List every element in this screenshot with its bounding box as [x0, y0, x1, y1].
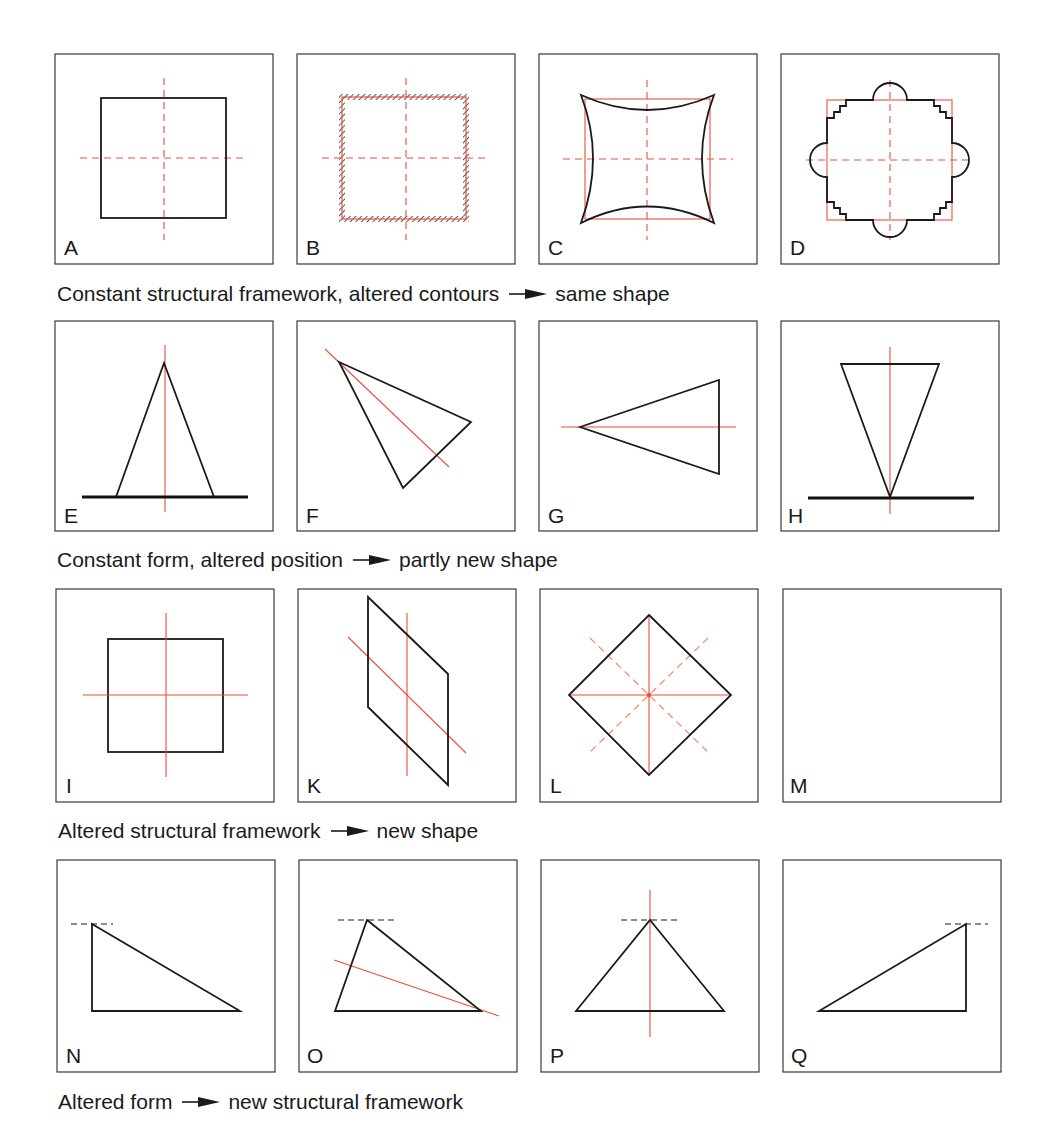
caption-premise: Constant form, altered position [57, 548, 343, 572]
panel-label: H [788, 504, 803, 527]
panel-frame [57, 860, 275, 1072]
caption-premise: Constant structural framework, altered c… [57, 282, 499, 306]
panel-k: K [298, 589, 516, 802]
panel-i: I [56, 589, 274, 802]
caption-premise: Altered structural framework [58, 819, 321, 843]
panel-label: I [66, 774, 72, 797]
panel-frame [783, 860, 1001, 1072]
panel-frame [783, 589, 1001, 802]
panel-frame [297, 54, 515, 264]
caption-result: new shape [377, 819, 479, 843]
row-4: N O P Q [57, 860, 1001, 1072]
panel-label: E [64, 504, 78, 527]
caption-row-4: Altered form new structural framework [58, 1090, 463, 1114]
panel-label: M [790, 774, 808, 797]
panel-p: P [541, 860, 759, 1072]
panel-label: C [548, 236, 563, 259]
panel-a: A [55, 54, 273, 264]
panel-label: K [307, 774, 321, 797]
panel-label: D [790, 236, 805, 259]
panel-d: D [781, 54, 999, 264]
panel-h: H [781, 321, 999, 531]
panel-l: L [540, 589, 758, 802]
center-point [647, 693, 651, 697]
panel-label: F [306, 504, 319, 527]
panel-g: G [539, 321, 757, 531]
right-arrow-icon [509, 287, 547, 301]
caption-row-3: Altered structural framework new shape [58, 819, 478, 843]
caption-row-1: Constant structural framework, altered c… [57, 282, 670, 306]
row-3: I K L M [56, 589, 1001, 802]
panel-frame [539, 321, 757, 531]
panel-label: B [306, 236, 320, 259]
caption-result: new structural framework [228, 1090, 463, 1114]
right-arrow-icon [182, 1095, 220, 1109]
caption-result: same shape [555, 282, 669, 306]
caption-premise: Altered form [58, 1090, 172, 1114]
panel-frame [55, 54, 273, 264]
panel-label: P [550, 1044, 564, 1067]
panel-e: E [55, 321, 273, 531]
row-1: A B C D [55, 54, 999, 264]
row-2: E F G H [55, 321, 999, 531]
panel-label: G [548, 504, 564, 527]
caption-row-2: Constant form, altered position partly n… [57, 548, 558, 572]
panel-n: N [57, 860, 275, 1072]
panel-label: O [307, 1044, 323, 1067]
panel-frame [55, 321, 273, 531]
panel-label: N [66, 1044, 81, 1067]
panel-q: Q [783, 860, 1001, 1072]
right-arrow-icon [331, 824, 369, 838]
panel-label: Q [791, 1044, 807, 1067]
panel-m: M [783, 589, 1001, 802]
panel-frame [299, 860, 517, 1072]
panel-c: C [539, 54, 757, 264]
panel-o: O [299, 860, 517, 1072]
panel-b: B [297, 54, 515, 264]
panel-label: A [64, 236, 78, 259]
right-arrow-icon [353, 553, 391, 567]
caption-result: partly new shape [399, 548, 558, 572]
panel-f: F [297, 321, 515, 531]
panel-label: L [550, 774, 562, 797]
